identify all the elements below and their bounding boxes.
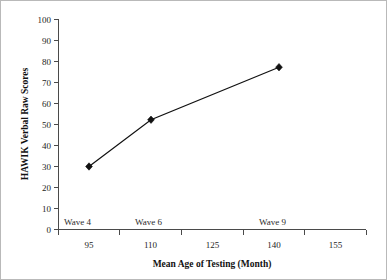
y-tick-label-0: 0: [47, 225, 52, 235]
chart-figure: 100 90 80 70 60 50 40 30 20 10 0 HAWIK V…: [0, 0, 387, 280]
y-tick-label-40: 40: [42, 141, 52, 151]
x-tick-label-155: 155: [329, 240, 343, 250]
y-tick-label-60: 60: [42, 99, 52, 109]
annotation-wave-4: Wave 4: [64, 217, 92, 227]
x-tick-label-140: 140: [267, 240, 281, 250]
annotation-wave-9: Wave 9: [259, 217, 287, 227]
x-tick-label-110: 110: [144, 240, 158, 250]
x-tick-label-125: 125: [206, 240, 220, 250]
y-tick-label-90: 90: [42, 36, 52, 46]
y-tick-label-80: 80: [42, 57, 52, 67]
y-tick-label-10: 10: [42, 204, 52, 214]
y-tick-label-20: 20: [42, 183, 52, 193]
y-tick-label-30: 30: [42, 162, 52, 172]
line-chart: 100 90 80 70 60 50 40 30 20 10 0 HAWIK V…: [1, 1, 387, 280]
y-tick-label-50: 50: [42, 120, 52, 130]
x-axis-title: Mean Age of Testing (Month): [153, 259, 272, 270]
y-axis-title: HAWIK Verbal Raw Scores: [20, 67, 30, 180]
y-tick-label-100: 100: [38, 15, 52, 25]
y-tick-label-70: 70: [42, 78, 52, 88]
annotation-wave-6: Wave 6: [135, 217, 163, 227]
x-tick-label-95: 95: [85, 240, 95, 250]
